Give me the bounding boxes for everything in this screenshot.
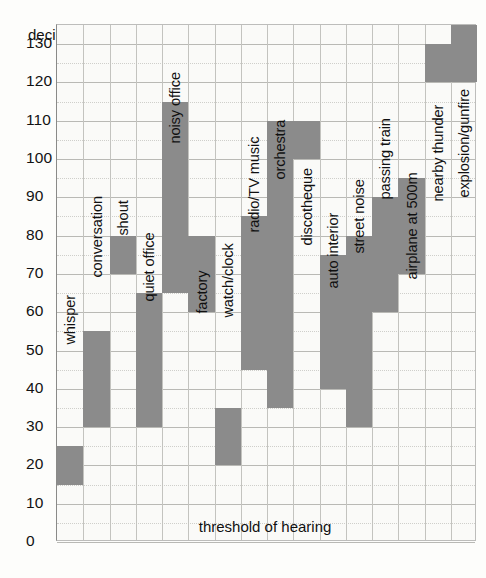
gridline-horizontal bbox=[57, 82, 475, 83]
gridline-horizontal-minor bbox=[57, 408, 475, 409]
gridline-vertical bbox=[425, 25, 426, 540]
bar bbox=[241, 216, 267, 369]
bar bbox=[451, 25, 477, 82]
bar-label: factory bbox=[195, 270, 210, 313]
gridline-horizontal bbox=[57, 504, 475, 505]
bar-label: auto interior bbox=[326, 213, 341, 289]
bar bbox=[346, 236, 372, 427]
gridline-vertical bbox=[136, 25, 137, 540]
bar-label: quiet office bbox=[142, 232, 157, 301]
plot-area: whisperconversationshoutquiet officenois… bbox=[56, 24, 476, 541]
bar-label: nearby thunder bbox=[431, 105, 446, 202]
bar bbox=[372, 197, 398, 312]
bar bbox=[83, 331, 109, 427]
bar-label: street noise bbox=[352, 179, 367, 253]
bar-label: watch/clock bbox=[221, 243, 236, 317]
decibel-chart-figure: decibels (dB) 01020304050607080901001101… bbox=[0, 0, 486, 578]
gridline-horizontal bbox=[57, 159, 475, 160]
gridline-horizontal-minor bbox=[57, 485, 475, 486]
gridline-horizontal bbox=[57, 44, 475, 45]
bar-label: shout bbox=[116, 200, 131, 235]
gridline-horizontal-minor bbox=[57, 140, 475, 141]
bar bbox=[57, 446, 83, 484]
gridline-vertical bbox=[451, 25, 452, 540]
bar bbox=[110, 236, 136, 274]
gridline-horizontal bbox=[57, 465, 475, 466]
gridline-vertical bbox=[293, 25, 294, 540]
gridline-horizontal-minor bbox=[57, 63, 475, 64]
threshold-annotation: threshold of hearing bbox=[199, 518, 332, 535]
gridline-vertical bbox=[110, 25, 111, 540]
bar-label: discotheque bbox=[300, 168, 315, 246]
bar bbox=[425, 44, 451, 82]
gridline-vertical bbox=[83, 25, 84, 540]
gridline-horizontal-minor bbox=[57, 370, 475, 371]
bar-label: passing train bbox=[379, 118, 394, 199]
bar bbox=[293, 121, 319, 159]
bar bbox=[215, 408, 241, 465]
bar-label: orchestra bbox=[274, 120, 289, 180]
gridline-horizontal bbox=[57, 121, 475, 122]
gridline-horizontal bbox=[57, 542, 475, 543]
y-axis-tick-labels: 0102030405060708090100110120130 bbox=[0, 24, 56, 541]
bar-label: radio/TV music bbox=[247, 137, 262, 233]
bar bbox=[136, 293, 162, 427]
bar-label: noisy office bbox=[169, 72, 184, 144]
gridline-horizontal-minor bbox=[57, 102, 475, 103]
bar-label: conversation bbox=[90, 196, 105, 278]
bar-label: airplane at 500m bbox=[405, 172, 420, 279]
gridline-horizontal-minor bbox=[57, 446, 475, 447]
gridline-horizontal bbox=[57, 389, 475, 390]
gridline-vertical bbox=[398, 25, 399, 540]
gridline-horizontal bbox=[57, 427, 475, 428]
bar-label: explosion/gunfire bbox=[457, 89, 472, 198]
bar-label: whisper bbox=[64, 295, 79, 345]
